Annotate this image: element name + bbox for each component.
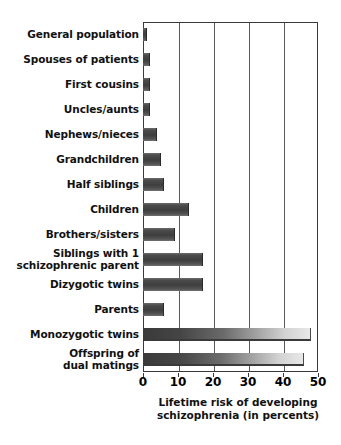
x-axis-title-line2: schizophrenia (in percents) <box>143 409 333 422</box>
bar <box>143 253 203 266</box>
category-axis-labels: General populationSpouses of patientsFir… <box>0 22 139 372</box>
bar <box>143 153 161 166</box>
x-tick-label: 20 <box>193 375 233 389</box>
category-label: Nephews/nieces <box>0 129 139 141</box>
category-label-line1: General population <box>27 28 139 40</box>
schizophrenia-risk-bar-chart: General populationSpouses of patientsFir… <box>0 0 341 445</box>
bar <box>143 128 157 141</box>
category-label: First cousins <box>0 79 139 91</box>
category-label: Parents <box>0 304 139 316</box>
category-label-line1: Brothers/sisters <box>46 228 139 240</box>
bar <box>143 303 164 316</box>
bar-row <box>143 128 318 141</box>
category-label-line2: schizophrenic parent <box>0 260 139 272</box>
bar <box>143 53 150 66</box>
bar <box>143 328 311 341</box>
category-label-line1: Monozygotic twins <box>30 328 139 340</box>
category-label: Dizygotic twins <box>0 279 139 291</box>
x-tick-label: 50 <box>298 375 338 389</box>
x-tick-label: 0 <box>123 375 163 389</box>
category-label-line1: Uncles/aunts <box>64 103 139 115</box>
bar-row <box>143 278 318 291</box>
bar <box>143 353 304 366</box>
category-label: General population <box>0 29 139 41</box>
category-label-line1: Parents <box>94 303 139 315</box>
bar <box>143 178 164 191</box>
category-label-line1: Offspring of <box>69 347 139 359</box>
category-label-line2: dual matings <box>0 360 139 372</box>
x-tick-label: 30 <box>228 375 268 389</box>
category-label: Half siblings <box>0 179 139 191</box>
x-tick-label: 10 <box>158 375 198 389</box>
category-label-line1: Half siblings <box>67 178 139 190</box>
bar-row <box>143 253 318 266</box>
category-label: Siblings with 1schizophrenic parent <box>0 248 139 271</box>
bar-row <box>143 228 318 241</box>
bar <box>143 78 150 91</box>
category-label: Uncles/aunts <box>0 104 139 116</box>
bar-row <box>143 28 318 41</box>
category-label-line1: Siblings with 1 <box>53 247 139 259</box>
bar-row <box>143 353 318 366</box>
bar-row <box>143 328 318 341</box>
x-axis-title-line1: Lifetime risk of developing <box>159 396 318 408</box>
category-label-line1: Spouses of patients <box>23 53 139 65</box>
x-axis-title: Lifetime risk of developing schizophreni… <box>143 396 333 421</box>
bar-row <box>143 53 318 66</box>
category-label-line1: Dizygotic twins <box>50 278 139 290</box>
bar-row <box>143 203 318 216</box>
category-label-line1: Children <box>90 203 139 215</box>
bar <box>143 28 147 41</box>
bar-series <box>143 22 318 372</box>
category-label: Monozygotic twins <box>0 329 139 341</box>
category-label-line1: Nephews/nieces <box>45 128 139 140</box>
category-label-line1: Grandchildren <box>56 153 139 165</box>
category-label: Grandchildren <box>0 154 139 166</box>
category-label: Offspring ofdual matings <box>0 348 139 371</box>
bar <box>143 278 203 291</box>
bar <box>143 203 189 216</box>
x-tick-label: 40 <box>263 375 303 389</box>
bar-row <box>143 78 318 91</box>
bar-row <box>143 178 318 191</box>
bar-row <box>143 103 318 116</box>
category-label-line1: First cousins <box>65 78 139 90</box>
category-label: Brothers/sisters <box>0 229 139 241</box>
bar-row <box>143 153 318 166</box>
bar <box>143 103 150 116</box>
category-label: Spouses of patients <box>0 54 139 66</box>
bar-row <box>143 303 318 316</box>
bar <box>143 228 175 241</box>
category-label: Children <box>0 204 139 216</box>
